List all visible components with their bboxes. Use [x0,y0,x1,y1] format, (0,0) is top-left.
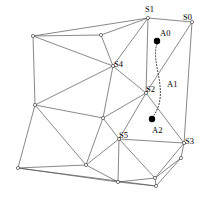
mesh-edge [33,18,148,36]
region-label-a1: A1 [167,80,178,89]
mesh-vertex-s1 [146,16,149,19]
vertex-label-s4: S4 [114,60,123,69]
vertex-label-s3: S3 [185,137,194,146]
mesh-diagram [0,0,207,199]
triangulated-mesh-figure: S1 S0 S2 S3 S4 S5 A0 A1 A2 [0,0,207,199]
mesh-vertex [179,156,182,159]
agent-dot-0 [154,38,160,44]
vertex-label-s5: S5 [119,131,128,140]
mesh-edge [184,22,192,143]
mesh-edge [18,165,86,168]
mesh-vertex-layer [16,16,193,187]
mesh-vertex [153,176,156,179]
vertex-label-s1: S1 [145,5,154,14]
vertex-label-s2: S2 [146,85,155,94]
mesh-edge [18,168,156,186]
mesh-edge [33,36,113,66]
mesh-edge [18,105,35,168]
mesh-edge [101,18,148,35]
mesh-edge [146,18,148,93]
mesh-edge [118,178,155,182]
mesh-vertex [84,163,87,166]
region-label-a0: A0 [160,29,171,38]
mesh-edge [35,105,86,165]
region-label-a2: A2 [152,126,163,135]
mesh-edge [155,143,184,178]
mesh-edge [119,139,155,178]
mesh-edge-layer [18,18,192,186]
mesh-vertex [31,34,34,37]
mesh-edge [101,35,113,66]
mesh-edge [113,66,146,93]
agent-dot-1 [149,116,155,122]
mesh-edge [118,139,119,182]
mesh-edge [35,66,113,105]
mesh-vertex [154,184,157,187]
mesh-edge [103,118,119,139]
mesh-edge [33,35,101,36]
mesh-vertex [99,33,102,36]
mesh-edge [33,36,35,105]
mesh-edge [119,139,184,143]
mesh-edge [35,105,103,118]
mesh-edge [155,158,181,178]
mesh-vertex [116,180,119,183]
mesh-vertex [101,116,104,119]
mesh-edge [103,66,113,118]
vertex-label-s0: S0 [183,13,192,22]
mesh-vertex [16,166,19,169]
mesh-edge [103,93,146,118]
mesh-vertex [33,103,36,106]
